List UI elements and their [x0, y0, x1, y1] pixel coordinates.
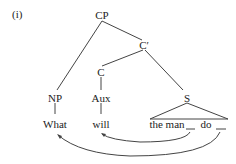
- node-c-bar: C′: [139, 39, 149, 51]
- tree-branches: [0, 0, 236, 164]
- movement-arrow-wh: [58, 132, 220, 156]
- node-np: NP: [48, 92, 62, 104]
- leaf-do: do: [201, 118, 212, 130]
- leaf-the-man: the man: [149, 118, 184, 130]
- node-c: C: [97, 66, 104, 78]
- node-s: S: [184, 92, 190, 104]
- leaf-will: will: [92, 118, 109, 130]
- leaf-what: What: [43, 118, 67, 130]
- node-aux: Aux: [92, 92, 111, 104]
- movement-arrow-aux: [102, 132, 190, 142]
- node-cp: CP: [95, 9, 108, 21]
